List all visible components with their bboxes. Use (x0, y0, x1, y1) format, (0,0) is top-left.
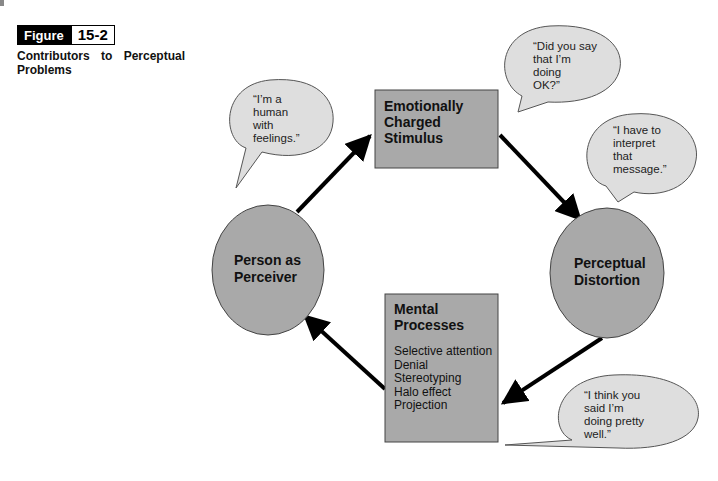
node-title-line: Perceiver (234, 269, 301, 286)
node-title-line: Emotionally (384, 98, 463, 114)
list-item: Projection (394, 399, 492, 413)
node-mental: Mental Processes Selective attention Den… (394, 301, 492, 413)
node-title-line: Stimulus (384, 130, 463, 146)
mental-process-list: Selective attention Denial Stereotyping … (394, 345, 492, 413)
bubble-line: “I have to (613, 124, 667, 137)
bubble-line: human (253, 106, 300, 119)
bubble-line: “I think you (584, 389, 644, 402)
node-perceiver: Person as Perceiver (234, 252, 301, 286)
node-title-line: Charged (384, 114, 463, 130)
bubble-line: that I’m (533, 53, 597, 66)
list-item: Denial (394, 359, 492, 373)
node-stimulus: Emotionally Charged Stimulus (384, 98, 463, 146)
node-title-line: Distortion (574, 272, 646, 289)
bubble-line: well.” (584, 428, 644, 441)
bubble-line: doing (533, 66, 597, 79)
bubble-line: doing pretty (584, 415, 644, 428)
bubble-line: feelings.” (253, 132, 300, 145)
node-title-line: Perceptual (574, 255, 646, 272)
list-item: Halo effect (394, 386, 492, 400)
arrow-mental-to-perceiver (305, 316, 385, 389)
bubble-line: “Did you say (533, 40, 597, 53)
bubble-text-stimulus: “Did you say that I’m doing OK?” (533, 40, 597, 92)
arrow-stimulus-to-distortion (500, 135, 580, 219)
node-title-line: Person as (234, 252, 301, 269)
bubble-line: “I’m a (253, 93, 300, 106)
bubble-line: that (613, 150, 667, 163)
bubble-text-perceiver: “I’m a human with feelings.” (253, 93, 300, 145)
bubble-text-distortion: “I have to interpret that message.” (613, 124, 667, 176)
list-item: Selective attention (394, 345, 492, 359)
bubble-line: message.” (613, 163, 667, 176)
bubble-line: with (253, 119, 300, 132)
bubble-line: said I’m (584, 402, 644, 415)
bubble-line: interpret (613, 137, 667, 150)
list-item: Stereotyping (394, 372, 492, 386)
node-title-line: Processes (394, 317, 492, 333)
bubble-text-mental: “I think you said I’m doing pretty well.… (584, 389, 644, 441)
node-title-line: Mental (394, 301, 492, 317)
node-distortion: Perceptual Distortion (574, 255, 646, 289)
bubble-line: OK?” (533, 79, 597, 92)
